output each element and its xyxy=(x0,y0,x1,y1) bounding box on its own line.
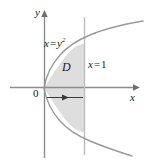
label-parabola-operator: = xyxy=(49,37,57,49)
label-parabola-equation: x=y2 xyxy=(44,37,66,49)
label-region-d: D xyxy=(62,61,71,73)
label-y-axis: y xyxy=(35,7,40,18)
x-axis-arrowhead xyxy=(133,84,140,91)
parabola-region-figure: x=y2 x=1 D 0 x y xyxy=(0,0,152,167)
label-vline-operator: = xyxy=(93,58,101,70)
label-origin: 0 xyxy=(33,88,39,99)
label-vline-rhs: 1 xyxy=(101,58,107,70)
figure-canvas xyxy=(0,0,152,167)
label-vertical-line-equation: x=1 xyxy=(88,59,107,70)
label-x-axis: x xyxy=(130,92,135,103)
label-parabola-exponent: 2 xyxy=(62,36,66,44)
